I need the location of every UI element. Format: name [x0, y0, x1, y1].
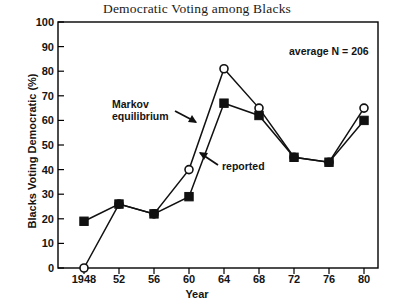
- data-point-reported-1964: [220, 99, 228, 107]
- annotation-arrow-markov: [175, 111, 197, 123]
- data-point-reported-1980: [360, 116, 368, 124]
- series-markers-reported: [80, 99, 368, 225]
- data-point-reported-1972: [290, 153, 298, 161]
- data-point-reported-1960: [185, 192, 193, 200]
- data-point-reported-1948: [80, 217, 88, 225]
- x-axis-ticks: [84, 268, 364, 274]
- plot-area: [0, 0, 394, 307]
- data-point-markov-1948: [80, 264, 88, 272]
- series-line-reported: [84, 103, 364, 221]
- data-point-reported-1952: [115, 200, 123, 208]
- data-point-reported-1976: [325, 158, 333, 166]
- plot-frame: [58, 22, 378, 268]
- series-markers-markov-equilibrium: [80, 65, 368, 272]
- data-point-markov-1964: [220, 65, 228, 73]
- y-axis-ticks: [58, 22, 64, 268]
- data-point-reported-1968: [255, 111, 263, 119]
- data-point-markov-1980: [360, 104, 368, 112]
- chart-figure: Democratic Voting among Blacks Blacks Vo…: [0, 0, 394, 307]
- data-point-reported-1956: [150, 210, 158, 218]
- data-point-markov-1960: [185, 166, 193, 174]
